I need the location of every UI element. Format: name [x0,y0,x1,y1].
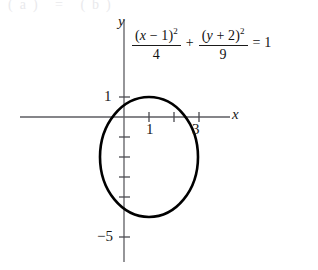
left-exponent: 2 [173,26,178,36]
ellipse-graph-figure: (a) = (b) y x 1 −5 1 3 [0,0,318,270]
ellipse-equation: (x − 1)2 4 + (y + 2)2 9 = 1 [130,26,274,63]
x-tick-label-3: 3 [192,122,200,137]
right-fraction-numerator: (y + 2)2 [199,26,248,45]
x-tick-label-1: 1 [146,122,154,137]
equation-left-fraction: (x − 1)2 4 [132,26,181,63]
equation-equals-one: = 1 [253,35,272,53]
equation-plus-operator: + [186,35,194,53]
y-tick-label-minus5: −5 [97,229,113,244]
left-fraction-denominator: 4 [153,46,160,63]
x-axis-label: x [232,107,239,122]
right-exponent: 2 [240,26,245,36]
y-axis-label: y [118,14,125,29]
right-fraction-denominator: 9 [220,46,227,63]
y-tick-label-1: 1 [104,89,112,104]
left-inner-term: − 1 [146,28,168,43]
left-fraction-numerator: (x − 1)2 [132,26,181,45]
right-inner-term: + 2 [213,28,235,43]
equation-right-fraction: (y + 2)2 9 [199,26,248,63]
